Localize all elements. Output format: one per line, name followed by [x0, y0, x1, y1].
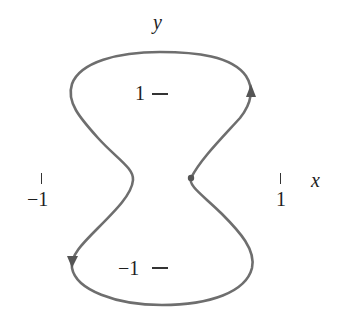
y-tick-neg-mark	[152, 267, 168, 269]
arrow-down-icon	[67, 256, 78, 268]
x-tick-neg-mark	[41, 173, 42, 184]
y-tick-pos-mark	[152, 93, 168, 95]
y-axis-label: y	[153, 12, 162, 32]
x-tick-pos-label: 1	[276, 189, 286, 209]
parametric-curve-diagram: y x −1 1 1 −1	[0, 0, 342, 327]
start-point-dot	[188, 175, 194, 181]
x-axis-label: x	[311, 170, 320, 190]
y-tick-pos-label: 1	[135, 83, 145, 103]
x-tick-neg-label: −1	[27, 189, 48, 209]
y-tick-neg-label: −1	[118, 258, 139, 278]
arrow-up-icon	[246, 84, 256, 97]
x-tick-pos-mark	[280, 173, 281, 184]
curve-plot	[0, 0, 342, 327]
